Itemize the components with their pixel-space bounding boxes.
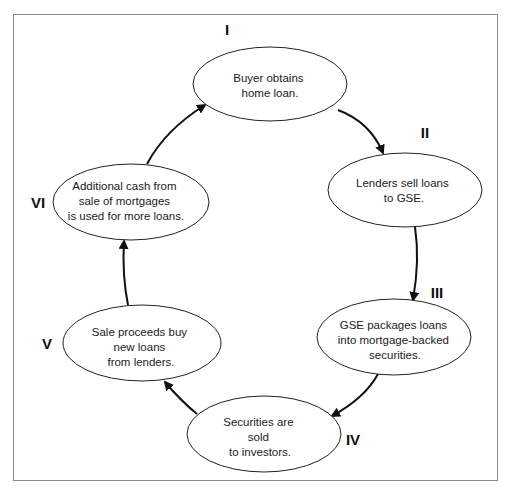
arrow-iv-to-v (165, 382, 197, 414)
node-v: V Sale proceeds buy new loans from lende… (42, 305, 221, 381)
node-iii-line-3: securities. (369, 349, 421, 361)
node-ii-line-2: to GSE. (384, 192, 424, 204)
node-iv-line-3: to investors. (229, 446, 291, 458)
node-iv-line-1: Securities are (223, 416, 293, 428)
node-vi-line-3: is used for more loans. (68, 210, 184, 222)
node-i: I Buyer obtains home loan. (193, 21, 347, 121)
arrow-i-to-ii (338, 110, 383, 153)
node-iii-line-1: GSE packages loans (340, 319, 448, 331)
node-vi: VI Additional cash from sale of mortgage… (31, 164, 209, 240)
arrow-iii-to-iv (332, 374, 378, 416)
node-vi-line-1: Additional cash from (72, 180, 176, 192)
node-ii-line-1: Lenders sell loans (356, 177, 449, 189)
node-i-line-1: Buyer obtains (233, 72, 304, 84)
step-label-v: V (42, 335, 52, 352)
node-iv: IV Securities are sold to investors. (187, 396, 360, 472)
node-vi-line-2: sale of mortgages (79, 195, 171, 207)
node-iii: III GSE packages loans into mortgage-bac… (317, 284, 471, 375)
node-iv-line-2: sold (248, 431, 269, 443)
arrow-v-to-vi (124, 241, 129, 305)
arrow-ii-to-iii (413, 227, 417, 300)
node-v-line-3: from lenders. (107, 356, 174, 368)
step-label-i: I (225, 21, 229, 38)
svg-text:Additional cash from sal: Additional cash from sale of mortgages i… (68, 180, 184, 222)
node-iii-line-2: into mortgage-backed (338, 334, 449, 346)
mortgage-cycle-diagram: I Buyer obtains home loan. II Lenders se… (0, 0, 511, 496)
node-v-line-1: Sale proceeds buy (92, 326, 188, 338)
node-i-line-2: home loan. (242, 87, 299, 99)
node-ii: II Lenders sell loans to GSE. (328, 124, 482, 227)
node-v-line-2: new loans (114, 341, 166, 353)
step-label-iii: III (431, 284, 444, 301)
step-label-vi: VI (31, 194, 45, 211)
step-label-ii: II (421, 124, 429, 141)
arrow-vi-to-i (147, 105, 205, 164)
step-label-iv: IV (346, 431, 360, 448)
